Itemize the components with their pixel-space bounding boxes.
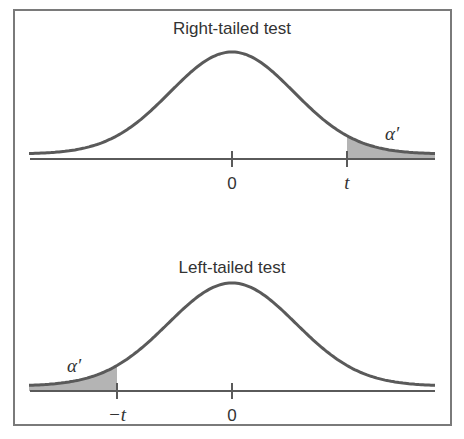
panel-title: Left-tailed test xyxy=(179,258,286,277)
tick-label-zero: 0 xyxy=(227,406,236,425)
tick-label-zero: 0 xyxy=(227,174,236,193)
right-tailed-panel: Right-tailed test 0 t α′ xyxy=(29,19,435,193)
tick-label-t: t xyxy=(344,172,350,193)
tick-label-neg-t: −t xyxy=(108,404,127,425)
density-curve xyxy=(29,283,435,385)
left-tailed-panel: Left-tailed test −t 0 α′ xyxy=(29,258,435,425)
alpha-prime-label: α′ xyxy=(67,355,82,376)
density-curve xyxy=(29,52,435,154)
alpha-prime-label: α′ xyxy=(385,123,400,144)
tailed-test-figure: Right-tailed test 0 t α′ Left-tailed tes… xyxy=(0,0,464,439)
panel-title: Right-tailed test xyxy=(173,19,291,38)
